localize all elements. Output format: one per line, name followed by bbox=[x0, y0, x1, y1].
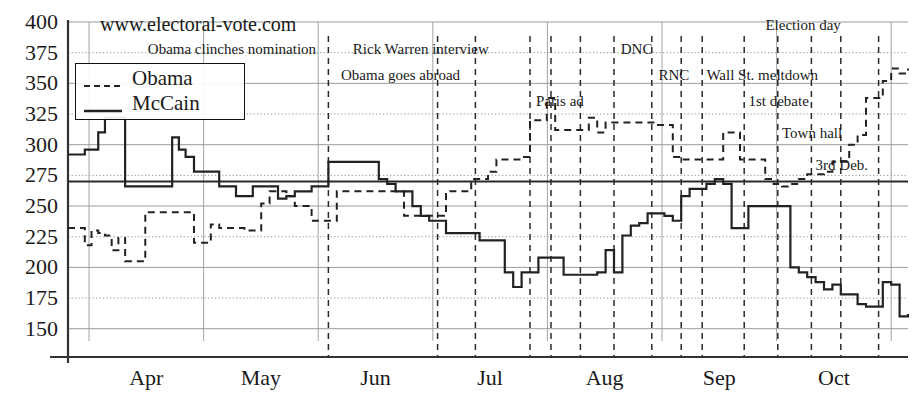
y-tick-label: 325 bbox=[0, 103, 58, 125]
legend-entry-mccain: McCain bbox=[83, 91, 236, 116]
annotation-label: Paris ad bbox=[536, 94, 584, 109]
y-tick-label: 150 bbox=[0, 318, 58, 340]
annotation-label: Election day bbox=[765, 18, 840, 33]
electoral-vote-chart: 150175200225250275300325350375400 AprMay… bbox=[0, 0, 915, 411]
annotation-label: Obama goes abroad bbox=[341, 68, 460, 83]
annotation-label: Wall St. meltdown bbox=[706, 68, 818, 83]
x-tick-label-sep: Sep bbox=[669, 367, 769, 389]
annotation-label: RNC bbox=[659, 68, 690, 83]
y-tick-label: 250 bbox=[0, 195, 58, 217]
y-tick-label: 275 bbox=[0, 164, 58, 186]
y-tick-label: 200 bbox=[0, 256, 58, 278]
y-tick-label: 175 bbox=[0, 287, 58, 309]
annotation-label: DNC bbox=[621, 42, 653, 57]
chart-legend: Obama McCain bbox=[75, 63, 245, 120]
y-tick-label: 225 bbox=[0, 226, 58, 248]
annotation-label: Rick Warren interview bbox=[353, 42, 489, 57]
annotation-label: 3rd Deb. bbox=[816, 158, 869, 173]
x-tick-label-apr: Apr bbox=[96, 367, 196, 389]
x-tick-label-jun: Jun bbox=[326, 367, 426, 389]
y-tick-label: 375 bbox=[0, 42, 58, 64]
legend-entry-obama: Obama bbox=[83, 66, 236, 91]
x-tick-label-jul: Jul bbox=[440, 367, 540, 389]
site-title: www.electoral-vote.com bbox=[100, 14, 296, 34]
y-tick-label: 400 bbox=[0, 11, 58, 33]
legend-label-obama: Obama bbox=[132, 68, 193, 89]
annotation-label: Town hall bbox=[782, 126, 842, 141]
chart-canvas bbox=[0, 0, 915, 411]
x-tick-label-may: May bbox=[211, 367, 311, 389]
annotation-label: Obama clinches nomination bbox=[148, 42, 316, 57]
event-lines-group bbox=[328, 36, 878, 357]
y-tick-label: 300 bbox=[0, 134, 58, 156]
x-tick-label-aug: Aug bbox=[555, 367, 655, 389]
y-tick-label: 350 bbox=[0, 72, 58, 94]
legend-label-mccain: McCain bbox=[132, 93, 200, 114]
annotation-label: 1st debate bbox=[748, 94, 808, 109]
x-tick-label-oct: Oct bbox=[784, 367, 884, 389]
